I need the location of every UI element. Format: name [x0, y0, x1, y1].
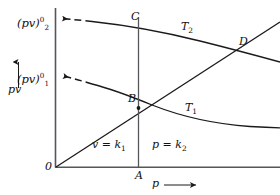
point-B-marker [137, 106, 141, 110]
x-axis-label: p [152, 178, 159, 189]
intercept-label-pv2: (pv)02 [17, 18, 49, 30]
p-const-constant: k [175, 138, 182, 151]
curve-T2-subscript: 2 [188, 26, 193, 35]
curve-label-T1: T1 [185, 102, 197, 113]
constraint-label-p-equals-k2: p = k2 [152, 139, 187, 150]
point-label-D: D [239, 36, 248, 47]
intercept-pv1-subscript: 1 [44, 79, 49, 88]
v-const-relation: = [98, 138, 114, 151]
point-label-C: C [131, 11, 139, 22]
curve-T1-extrapolation [63, 76, 92, 84]
p-const-base: p [152, 138, 159, 151]
curve-label-T2: T2 [181, 21, 193, 32]
y-axis-label: pv [8, 84, 21, 95]
curve-T2-extrapolation [62, 19, 92, 22]
p-const-relation: = [159, 138, 175, 151]
y-axis-label-group: pv [8, 58, 38, 98]
intercept-pv2-subscript: 2 [44, 23, 49, 32]
v-const-constant-subscript: 1 [121, 144, 126, 153]
constraint-label-v-equals-k1: v = k1 [92, 139, 126, 150]
origin-label: 0 [45, 161, 52, 172]
pv-diagram-figure: (pv)02 (pv)01 pv p 0 A B C D T2 T1 v = k… [0, 0, 280, 195]
point-label-A: A [135, 170, 143, 181]
point-label-B: B [128, 93, 136, 104]
curve-T1-subscript: 1 [192, 107, 197, 116]
intercept-pv2-base: (pv) [17, 16, 40, 30]
p-const-constant-subscript: 2 [182, 144, 187, 153]
